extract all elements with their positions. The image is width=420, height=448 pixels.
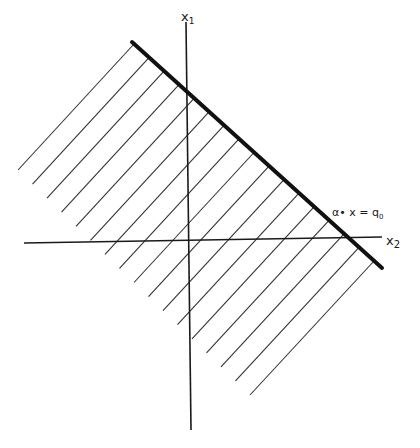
hatch-line — [192, 207, 314, 339]
x1-axis-label: x1 — [181, 9, 194, 26]
hatch-line — [221, 234, 344, 367]
hatch-line — [120, 139, 240, 269]
hatch-line — [18, 44, 134, 170]
boundary-equation-label: α• x = q0 — [332, 206, 383, 221]
hatch-line — [149, 166, 270, 297]
half-plane-diagram: x1 x2 α• x = q0 — [0, 0, 420, 448]
hatch-line — [134, 153, 254, 283]
hatch-line — [33, 58, 150, 185]
hatched-region — [18, 44, 374, 395]
x2-axis-label: x2 — [386, 233, 400, 250]
hatch-line — [105, 125, 224, 254]
hatch-line — [178, 193, 300, 325]
hatch-line — [250, 261, 374, 395]
hatch-line — [163, 180, 284, 311]
hatch-line — [236, 247, 360, 381]
